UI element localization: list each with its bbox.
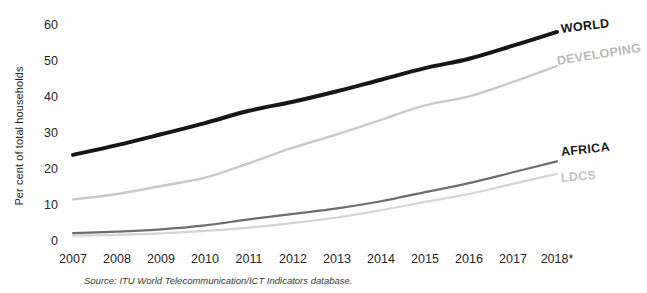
chart-container: Per cent of total households 60 50 40 30… — [0, 0, 647, 293]
series-line-ldcs — [73, 174, 557, 236]
chart-plot-area — [0, 0, 647, 293]
series-line-africa — [73, 161, 557, 233]
source-note: Source: ITU World Telecommunication/ICT … — [84, 275, 352, 286]
series-line-world — [73, 32, 557, 155]
